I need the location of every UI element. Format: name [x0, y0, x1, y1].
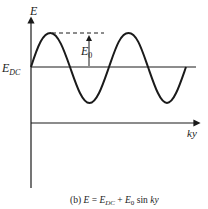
e0-label: E0: [80, 44, 92, 60]
sine-curve: [31, 33, 186, 103]
ky-axis-label: ky: [187, 127, 197, 139]
field-diagram: E EDC E0 ky (b) E = EDC + E0 sin ky: [0, 0, 208, 209]
caption: (b) E = EDC + E0 sin ky: [70, 195, 159, 207]
edc-label: EDC: [1, 61, 21, 77]
e-axis-label: E: [29, 4, 38, 18]
